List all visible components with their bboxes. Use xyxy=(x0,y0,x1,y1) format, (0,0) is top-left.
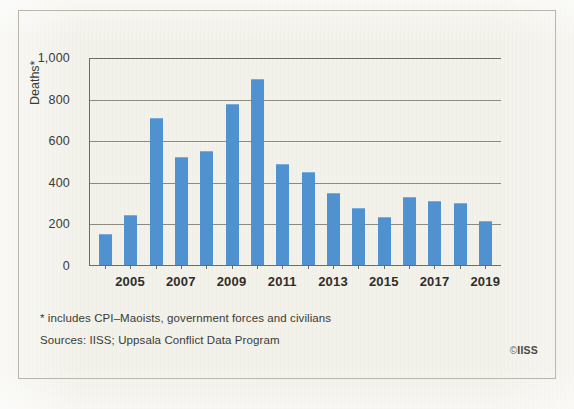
bar-slot xyxy=(321,58,346,265)
y-tick-label: 1,000 xyxy=(10,51,70,65)
x-axis-tick xyxy=(105,265,106,269)
chart-figure: Deaths* 1,000 800 600 400 200 0 20052007… xyxy=(0,0,574,409)
bar xyxy=(378,217,391,265)
bar xyxy=(403,197,416,265)
x-tick-label: 2013 xyxy=(310,274,356,289)
bar xyxy=(251,79,264,265)
bar-slot xyxy=(447,58,472,265)
bar xyxy=(226,104,239,265)
bar-slot xyxy=(245,58,270,265)
x-axis-tick xyxy=(130,265,131,269)
bar-slot xyxy=(118,58,143,265)
bar xyxy=(327,193,340,265)
bar xyxy=(124,215,137,265)
y-tick-label: 200 xyxy=(10,217,70,231)
x-tick-label: 2005 xyxy=(107,274,153,289)
bar xyxy=(479,221,492,266)
footnote: * includes CPI–Maoists, government force… xyxy=(40,312,331,324)
x-axis-tick xyxy=(308,265,309,269)
copyright-credit: ©IISS xyxy=(510,344,538,356)
x-axis-tick xyxy=(358,265,359,269)
bar-slot xyxy=(371,58,396,265)
x-axis-tick xyxy=(434,265,435,269)
y-tick-label: 400 xyxy=(10,176,70,190)
sources-note: Sources: IISS; Uppsala Conflict Data Pro… xyxy=(40,334,280,346)
bar-slot xyxy=(422,58,447,265)
bar xyxy=(99,234,112,265)
bar-slot xyxy=(93,58,118,265)
x-axis-tick xyxy=(232,265,233,269)
bar-slot xyxy=(144,58,169,265)
bar xyxy=(428,201,441,265)
bar-slot xyxy=(473,58,498,265)
bar-slot xyxy=(296,58,321,265)
bar-series xyxy=(90,58,501,265)
bar-slot xyxy=(397,58,422,265)
x-axis-tick xyxy=(206,265,207,269)
x-tick-label: 2009 xyxy=(209,274,255,289)
y-tick-label: 0 xyxy=(10,259,70,273)
x-axis-tick-labels: 20052007200920112013201520172019 xyxy=(89,274,501,294)
x-tick-label: 2017 xyxy=(412,274,458,289)
bar xyxy=(175,157,188,265)
x-tick-label: 2007 xyxy=(158,274,204,289)
x-axis-tick xyxy=(282,265,283,269)
bar xyxy=(150,118,163,265)
bar-slot xyxy=(169,58,194,265)
bar xyxy=(276,164,289,265)
x-axis-tick xyxy=(485,265,486,269)
x-axis-tick xyxy=(460,265,461,269)
bar xyxy=(454,203,467,265)
y-tick-label: 600 xyxy=(10,134,70,148)
y-tick-label: 800 xyxy=(10,93,70,107)
x-tick-label: 2019 xyxy=(462,274,508,289)
x-axis-tick xyxy=(156,265,157,269)
bar xyxy=(352,208,365,265)
copyright-organisation: IISS xyxy=(517,344,538,356)
bar-slot xyxy=(270,58,295,265)
x-axis-tick xyxy=(409,265,410,269)
bar-slot xyxy=(220,58,245,265)
bar xyxy=(302,172,315,265)
x-tick-label: 2011 xyxy=(259,274,305,289)
x-axis-tick xyxy=(384,265,385,269)
bar-slot xyxy=(194,58,219,265)
x-axis-tick xyxy=(181,265,182,269)
bar-slot xyxy=(346,58,371,265)
x-axis-tick xyxy=(333,265,334,269)
bar xyxy=(200,151,213,265)
x-tick-label: 2015 xyxy=(361,274,407,289)
plot-area xyxy=(89,58,501,266)
x-axis-tick xyxy=(257,265,258,269)
